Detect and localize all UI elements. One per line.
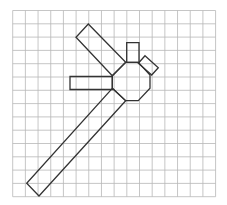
- right-small-tilted-rect: [138, 56, 158, 75]
- grid-diagram: [0, 0, 227, 205]
- grid-paper: [13, 11, 216, 197]
- diagram-canvas: [0, 0, 227, 205]
- upper-diagonal-panel: [76, 24, 126, 76]
- top-small-rect: [127, 43, 139, 63]
